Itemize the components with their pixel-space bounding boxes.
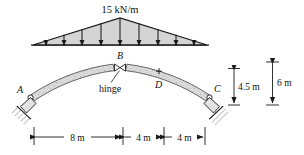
dimension-label-4m-second: 4 m [177, 133, 192, 143]
support-a [11, 95, 36, 126]
hinge-leader-line [111, 71, 120, 83]
label-support-c: C [214, 83, 221, 94]
arch-segment-right [126, 64, 211, 100]
support-c [204, 95, 229, 126]
dimension-label-6m: 6 m [277, 78, 292, 88]
label-point-d: D [154, 79, 163, 90]
distributed-load-group: 15 kN/m [31, 4, 209, 46]
arch-diagram-figure: 15 kN/m A B D C hinge [0, 0, 304, 155]
dimension-label-4p5m: 4.5 m [238, 82, 260, 92]
hinge-b-icon [115, 64, 126, 71]
load-magnitude-label: 15 kN/m [101, 4, 138, 15]
label-support-a: A [16, 84, 24, 95]
dimension-label-8m: 8 m [70, 133, 85, 143]
diagram-canvas: 15 kN/m A B D C hinge [0, 0, 304, 155]
label-hinge-b: B [117, 50, 123, 61]
label-hinge-note: hinge [99, 83, 122, 94]
dimension-label-4m-first: 4 m [136, 133, 151, 143]
